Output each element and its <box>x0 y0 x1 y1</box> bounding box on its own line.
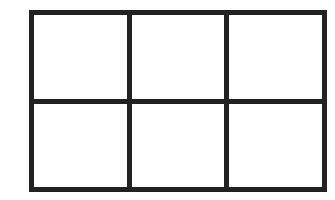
grid-cell-r2-c2 <box>132 104 225 188</box>
grid-cell-r1-c3 <box>229 15 322 99</box>
grid-cell-r2-c1 <box>34 104 127 188</box>
grid-cell-r1-c1 <box>34 15 127 99</box>
diagram-canvas <box>0 0 335 200</box>
grid-cell-r2-c3 <box>229 104 322 188</box>
grid-2x3 <box>29 10 327 192</box>
grid-cell-r1-c2 <box>132 15 225 99</box>
